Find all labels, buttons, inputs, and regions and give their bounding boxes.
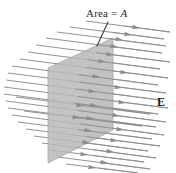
field-line-arrowhead [120, 70, 128, 75]
field-line [124, 26, 170, 32]
field-line [106, 38, 166, 46]
field-line-arrowhead [112, 113, 120, 118]
vector-arrow-icon [157, 96, 176, 173]
field-line [99, 162, 150, 169]
field-line-arrowhead [116, 127, 124, 132]
field-line [112, 32, 164, 39]
diagram-canvas [0, 0, 176, 173]
field-line-arrowhead [88, 165, 96, 170]
electric-flux-diagram: Area = A E [0, 0, 176, 173]
field-line-arrowhead [132, 25, 140, 30]
field-line [98, 168, 138, 173]
field-line-arrowhead [124, 32, 132, 37]
area-label-prefix: Area = [86, 7, 120, 19]
field-line [92, 155, 144, 162]
field-line-arrowhead [80, 152, 88, 157]
area-label-symbol: A [120, 7, 127, 19]
area-label: Area = A [86, 7, 127, 19]
electric-field-label: E [157, 96, 165, 108]
area-plane [48, 38, 113, 163]
